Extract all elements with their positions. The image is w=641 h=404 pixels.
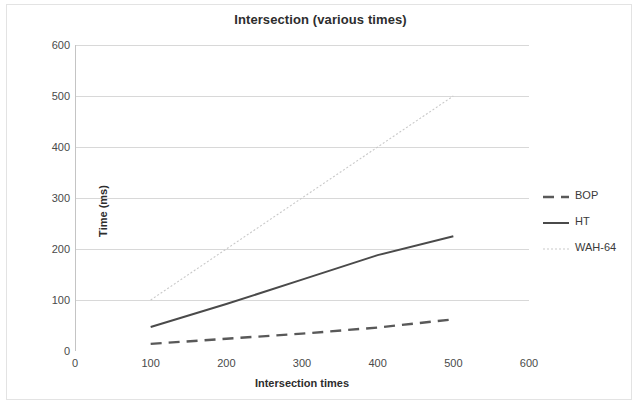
plot-svg — [75, 45, 529, 351]
y-axis-tick-labels: 6005004003002001000 — [30, 45, 70, 351]
y-axis-title: Time (ms) — [97, 161, 109, 261]
legend-swatch-icon — [543, 215, 569, 227]
x-tick-label: 100 — [131, 357, 171, 369]
chart-legend: BOPHTWAH-64 — [543, 182, 635, 260]
legend-item-label: BOP — [575, 189, 598, 201]
legend-item-label: WAH-64 — [575, 241, 616, 253]
legend-item-bop[interactable]: BOP — [543, 182, 635, 208]
legend-item-wah-64[interactable]: WAH-64 — [543, 234, 635, 260]
legend-item-ht[interactable]: HT — [543, 208, 635, 234]
x-tick-label: 200 — [206, 357, 246, 369]
x-axis-title: Intersection times — [75, 377, 529, 389]
y-tick-label: 400 — [36, 141, 70, 153]
x-axis-tick-labels: 0100200300400500600 — [75, 357, 529, 375]
y-tick-label: 0 — [36, 345, 70, 357]
x-tick-label: 0 — [55, 357, 95, 369]
plot-area: Time (ms) — [75, 45, 529, 351]
legend-item-label: HT — [575, 215, 590, 227]
x-tick-label: 400 — [358, 357, 398, 369]
x-tick-label: 500 — [433, 357, 473, 369]
y-tick-label: 200 — [36, 243, 70, 255]
y-tick-label: 300 — [36, 192, 70, 204]
chart-title: Intersection (various times) — [0, 12, 641, 27]
x-tick-label: 600 — [509, 357, 549, 369]
y-tick-label: 100 — [36, 294, 70, 306]
chart-figure: Intersection (various times) 60050040030… — [0, 0, 641, 404]
y-tick-label: 600 — [36, 39, 70, 51]
x-tick-label: 300 — [282, 357, 322, 369]
legend-swatch-icon — [543, 189, 569, 201]
series-line-bop — [151, 319, 454, 343]
legend-swatch-icon — [543, 241, 569, 253]
y-tick-label: 500 — [36, 90, 70, 102]
